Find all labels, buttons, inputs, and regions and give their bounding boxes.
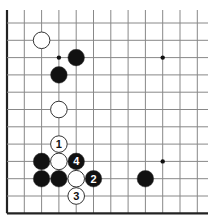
white-stone-move-3: 3	[68, 188, 85, 205]
move-number-label: 2	[90, 173, 96, 185]
white-stone-icon	[51, 101, 68, 118]
black-stone	[51, 67, 68, 84]
white-stone-icon	[33, 32, 50, 49]
move-number-label: 3	[73, 190, 79, 202]
black-stone-icon	[51, 170, 68, 187]
black-stone-move-2: 2	[85, 170, 102, 187]
white-stone	[51, 101, 68, 118]
black-stone-icon	[33, 153, 50, 170]
black-stone-move-4: 4	[68, 153, 85, 170]
white-stone	[68, 170, 85, 187]
white-stone	[51, 153, 68, 170]
black-stone-icon	[51, 67, 68, 84]
white-stone	[33, 32, 50, 49]
move-number-label: 1	[56, 138, 62, 150]
move-number-label: 4	[73, 155, 80, 167]
black-stone	[68, 49, 85, 66]
star-point-icon	[57, 55, 61, 59]
white-stone-icon	[68, 170, 85, 187]
black-stone-icon	[68, 49, 85, 66]
star-point-icon	[161, 159, 165, 163]
star-point-icon	[161, 55, 165, 59]
black-stone	[33, 153, 50, 170]
black-stone	[137, 170, 154, 187]
black-stone	[33, 170, 50, 187]
go-board-diagram: 1423	[0, 0, 210, 220]
white-stone-move-1: 1	[51, 136, 68, 153]
black-stone-icon	[137, 170, 154, 187]
white-stone-icon	[51, 153, 68, 170]
black-stone	[51, 170, 68, 187]
black-stone-icon	[33, 170, 50, 187]
